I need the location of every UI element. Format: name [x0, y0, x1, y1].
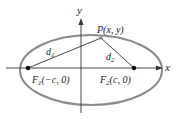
diagram-canvas: y x P(x, y) d1 d2 F1(−c, 0) F2(c, 0) [0, 0, 180, 119]
point-p-label: P(x, y) [96, 24, 124, 36]
y-axis-arrow-icon [79, 18, 84, 25]
y-axis-label: y [76, 4, 82, 16]
point-p [99, 36, 102, 39]
focus-f2-point [132, 66, 137, 71]
d1-segment [28, 38, 101, 68]
d1-label: d1 [46, 46, 55, 59]
f2-label: F2(c, 0) [99, 74, 131, 87]
ellipse [20, 35, 162, 105]
d2-label: d2 [106, 51, 115, 64]
focus-f1-point [26, 66, 31, 71]
ellipse-diagram: y x P(x, y) d1 d2 F1(−c, 0) F2(c, 0) [0, 0, 180, 119]
x-axis-label: x [164, 61, 170, 73]
f1-label: F1(−c, 0) [31, 74, 70, 87]
